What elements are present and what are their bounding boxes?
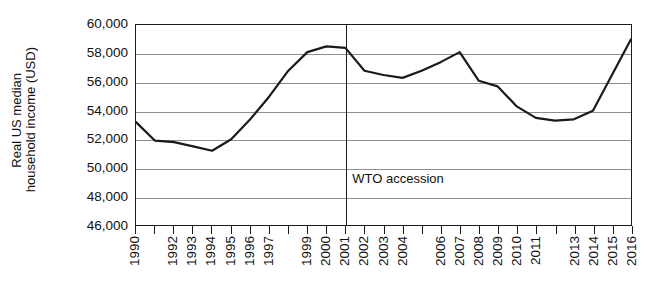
x-tick bbox=[269, 226, 270, 234]
x-tick bbox=[613, 226, 614, 234]
x-tick-label: 2009 bbox=[491, 236, 505, 266]
y-tick-label: 60,000 bbox=[87, 17, 128, 31]
x-tick bbox=[364, 226, 365, 234]
y-axis-title: Real US median household income (USD) bbox=[0, 0, 46, 240]
x-tick bbox=[498, 226, 499, 234]
y-tick-label: 50,000 bbox=[87, 162, 128, 176]
y-axis-title-line-2: household income (USD) bbox=[24, 47, 37, 192]
x-tick bbox=[384, 226, 385, 234]
x-tick bbox=[231, 226, 232, 234]
x-tick bbox=[154, 226, 155, 234]
x-tick bbox=[250, 226, 251, 234]
x-tick-label: 2008 bbox=[472, 236, 486, 266]
x-tick bbox=[556, 226, 557, 234]
y-tick-label: 52,000 bbox=[87, 133, 128, 147]
x-tick-label: 2014 bbox=[587, 236, 601, 266]
x-tick-label: 2002 bbox=[357, 236, 371, 266]
x-tick bbox=[288, 226, 289, 234]
x-tick-label: 2011 bbox=[529, 236, 543, 265]
x-tick bbox=[479, 226, 480, 234]
x-tick-label: 1996 bbox=[243, 236, 257, 266]
y-tick-label: 58,000 bbox=[87, 46, 128, 60]
y-axis-tick-labels: 60,00058,00056,00054,00052,00050,00048,0… bbox=[46, 0, 132, 240]
x-axis-ticks bbox=[135, 226, 632, 234]
x-tick bbox=[536, 226, 537, 234]
x-tick-label: 2015 bbox=[606, 236, 620, 266]
x-tick-label: 1994 bbox=[204, 236, 218, 266]
series-line-income bbox=[136, 25, 631, 225]
y-tick-label: 54,000 bbox=[87, 104, 128, 118]
x-tick-label: 2007 bbox=[453, 236, 467, 266]
x-tick bbox=[307, 226, 308, 234]
x-tick-label: 1997 bbox=[262, 236, 276, 266]
x-tick-label: 1993 bbox=[185, 236, 199, 266]
x-tick-label: 2006 bbox=[434, 236, 448, 266]
x-tick bbox=[192, 226, 193, 234]
x-tick-label: 1995 bbox=[224, 236, 238, 266]
chart-figure: Real US median household income (USD) 60… bbox=[0, 0, 648, 302]
x-tick bbox=[422, 226, 423, 234]
x-tick bbox=[345, 226, 346, 234]
x-tick bbox=[632, 226, 633, 234]
x-tick bbox=[211, 226, 212, 234]
x-tick-label: 1992 bbox=[166, 236, 180, 266]
x-tick-label: 2001 bbox=[338, 236, 352, 266]
x-tick bbox=[441, 226, 442, 234]
plot-area: WTO accession bbox=[135, 24, 632, 226]
x-tick bbox=[460, 226, 461, 234]
x-tick-label: 2016 bbox=[625, 236, 639, 266]
x-tick-label: 2013 bbox=[568, 236, 582, 266]
x-tick bbox=[403, 226, 404, 234]
x-axis-tick-labels: 1990199219931994199519961997199920002001… bbox=[135, 236, 632, 302]
x-tick bbox=[135, 226, 136, 234]
x-tick-label: 2000 bbox=[319, 236, 333, 266]
x-tick-label: 1999 bbox=[300, 236, 314, 266]
x-tick bbox=[173, 226, 174, 234]
y-axis-title-line-1: Real US median bbox=[10, 73, 23, 168]
x-tick-label: 2004 bbox=[396, 236, 410, 266]
x-tick bbox=[326, 226, 327, 234]
y-tick-label: 46,000 bbox=[87, 219, 128, 233]
x-tick-label: 2003 bbox=[377, 236, 391, 266]
x-tick-label: 2010 bbox=[510, 236, 524, 266]
x-tick-label: 1990 bbox=[128, 236, 142, 266]
x-tick bbox=[575, 226, 576, 234]
x-tick bbox=[594, 226, 595, 234]
y-tick-label: 56,000 bbox=[87, 75, 128, 89]
x-tick bbox=[517, 226, 518, 234]
y-tick-label: 48,000 bbox=[87, 190, 128, 204]
